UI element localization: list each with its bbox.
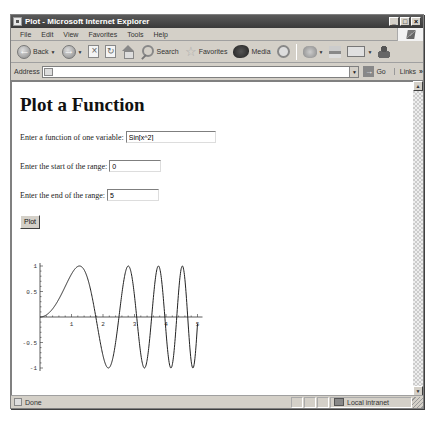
menu-favorites[interactable]: Favorites — [83, 31, 122, 38]
title-bar[interactable]: Plot - Microsoft Internet Explorer _ □ × — [11, 15, 423, 28]
status-panel — [304, 397, 316, 408]
page-content: Plot a Function Enter a function of one … — [11, 81, 414, 396]
back-arrow-icon — [17, 45, 31, 59]
print-button[interactable] — [326, 42, 344, 62]
status-bar: Done Local intranet — [11, 395, 423, 408]
stop-button[interactable] — [85, 42, 102, 62]
chevron-right-icon: » — [419, 68, 423, 75]
toolbar-separator — [296, 44, 297, 60]
favorites-button[interactable]: ☆ Favorites — [182, 42, 231, 62]
print-icon — [329, 46, 341, 58]
scroll-up-button[interactable]: ▲ — [413, 81, 423, 91]
home-icon — [122, 45, 134, 58]
minimize-button[interactable]: _ — [389, 17, 399, 26]
status-panel — [317, 397, 329, 408]
status-text: Done — [25, 399, 291, 406]
stop-icon — [88, 45, 99, 58]
start-row: Enter the start of the range: — [20, 160, 161, 172]
ie-page-icon — [13, 17, 22, 26]
vertical-scrollbar[interactable]: ▲ ▼ — [413, 81, 423, 396]
search-label: Search — [156, 48, 178, 55]
back-label: Back — [33, 48, 49, 55]
favorites-label: Favorites — [199, 48, 228, 55]
edit-dropdown-icon[interactable]: ▼ — [367, 49, 372, 55]
maximize-button[interactable]: □ — [400, 17, 410, 26]
history-button[interactable] — [274, 42, 293, 62]
svg-text:0.5: 0.5 — [26, 289, 37, 296]
back-button[interactable]: Back ▼ — [14, 42, 59, 62]
svg-text:-1: -1 — [30, 365, 38, 372]
links-button[interactable]: Links» — [394, 68, 423, 75]
menu-help[interactable]: Help — [149, 31, 173, 38]
function-label: Enter a function of one variable: — [20, 133, 124, 142]
history-icon — [277, 45, 290, 58]
edit-icon — [347, 46, 365, 57]
address-dropdown-icon[interactable]: ▼ — [349, 67, 358, 77]
page-done-icon — [14, 398, 22, 406]
svg-text:-0.5: -0.5 — [23, 340, 38, 347]
end-label: Enter the end of the range: — [20, 191, 105, 200]
page-icon — [44, 68, 53, 76]
status-panel — [291, 397, 303, 408]
mail-dropdown-icon[interactable]: ▼ — [319, 49, 324, 55]
end-input[interactable] — [107, 189, 159, 201]
search-icon — [140, 45, 154, 59]
media-label: Media — [251, 48, 270, 55]
function-input[interactable] — [126, 131, 216, 143]
star-icon: ☆ — [185, 45, 197, 58]
zone-label: Local intranet — [347, 399, 389, 406]
mail-button[interactable]: ▼ — [300, 42, 327, 62]
messenger-icon — [378, 45, 390, 58]
intranet-icon — [334, 398, 344, 406]
edit-button[interactable]: ▼ — [344, 42, 375, 62]
start-label: Enter the start of the range: — [20, 162, 107, 171]
standard-toolbar: Back ▼ ▼ Search ☆ Favorites Media — [11, 41, 423, 63]
windows-logo-icon — [397, 28, 423, 41]
svg-text:2: 2 — [101, 321, 105, 328]
address-bar: Address ▼ → Go Links» — [11, 63, 423, 81]
menu-view[interactable]: View — [58, 31, 83, 38]
close-button[interactable]: × — [411, 17, 421, 26]
window-title: Plot - Microsoft Internet Explorer — [25, 17, 149, 26]
menu-bar: File Edit View Favorites Tools Help — [11, 28, 423, 41]
end-row: Enter the end of the range: — [20, 189, 159, 201]
plot-button[interactable]: Plot — [20, 215, 40, 229]
go-button[interactable]: → Go — [363, 66, 385, 77]
forward-button[interactable]: ▼ — [59, 42, 86, 62]
function-row: Enter a function of one variable: — [20, 131, 216, 143]
home-button[interactable] — [119, 42, 137, 62]
menu-edit[interactable]: Edit — [36, 31, 58, 38]
menu-file[interactable]: File — [15, 31, 36, 38]
forward-arrow-icon — [62, 45, 76, 59]
svg-text:1: 1 — [70, 321, 74, 328]
media-button[interactable]: Media — [230, 42, 273, 62]
media-icon — [233, 45, 249, 58]
menu-tools[interactable]: Tools — [122, 31, 148, 38]
go-arrow-icon: → — [363, 66, 374, 77]
security-zone: Local intranet — [330, 397, 412, 408]
address-label: Address — [14, 68, 40, 75]
svg-text:3: 3 — [133, 321, 137, 328]
start-input[interactable] — [109, 160, 161, 172]
resize-grip[interactable] — [412, 397, 423, 408]
links-label: Links — [400, 68, 416, 75]
mail-icon — [303, 46, 317, 58]
back-dropdown-icon[interactable]: ▼ — [51, 49, 56, 55]
messenger-button[interactable] — [375, 42, 393, 62]
forward-dropdown-icon[interactable]: ▼ — [78, 49, 83, 55]
plot-axes: 1234510.5-0.5-1 — [23, 263, 203, 372]
page-title: Plot a Function — [20, 94, 145, 116]
go-label: Go — [376, 68, 385, 75]
browser-window: Plot - Microsoft Internet Explorer _ □ ×… — [10, 14, 424, 409]
address-input[interactable]: ▼ — [42, 66, 360, 78]
svg-text:1: 1 — [33, 263, 37, 270]
refresh-icon — [105, 45, 116, 58]
search-button[interactable]: Search — [137, 42, 181, 62]
refresh-button[interactable] — [102, 42, 119, 62]
function-plot: 1234510.5-0.5-1 — [12, 237, 222, 372]
